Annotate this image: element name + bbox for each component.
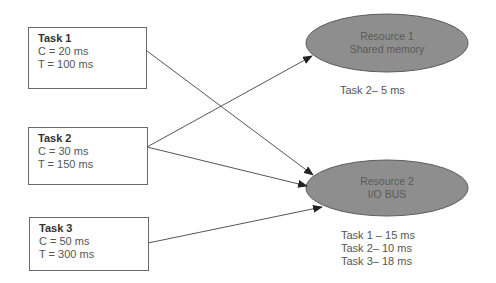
task-1-title: Task 1 — [38, 32, 146, 45]
resource-2-usage-line: Task 1 – 15 ms — [341, 229, 415, 242]
task-2-period: T = 150 ms — [38, 158, 147, 171]
resource-1-type: Shared memory — [307, 43, 467, 56]
task-2-title: Task 2 — [38, 132, 147, 145]
task-1-period: T = 100 ms — [38, 58, 146, 71]
edge-task3-resource2 — [148, 207, 322, 243]
resource-1-name: Resource 1 — [307, 30, 467, 43]
resource-2-usage-line: Task 2– 10 ms — [341, 242, 415, 255]
task-2-computation: C = 30 ms — [38, 145, 147, 158]
task-1-box: Task 1 C = 20 ms T = 100 ms — [28, 27, 147, 89]
resource-2-type: I/O BUS — [307, 188, 467, 201]
resource-1-usage-line: Task 2– 5 ms — [340, 84, 405, 97]
task-3-computation: C = 50 ms — [39, 235, 148, 248]
task-2-box: Task 2 C = 30 ms T = 150 ms — [28, 127, 148, 185]
resource-1-label: Resource 1 Shared memory — [307, 30, 467, 56]
resource-2-usage: Task 1 – 15 ms Task 2– 10 ms Task 3– 18 … — [341, 229, 415, 268]
task-3-box: Task 3 C = 50 ms T = 300 ms — [29, 217, 149, 271]
task-1-computation: C = 20 ms — [38, 45, 146, 58]
resource-2-usage-line: Task 3– 18 ms — [341, 255, 415, 268]
resource-2-label: Resource 2 I/O BUS — [307, 175, 467, 201]
resource-1-usage: Task 2– 5 ms — [340, 84, 405, 97]
task-3-title: Task 3 — [39, 222, 148, 235]
resource-2-name: Resource 2 — [307, 175, 467, 188]
task-3-period: T = 300 ms — [39, 248, 148, 261]
